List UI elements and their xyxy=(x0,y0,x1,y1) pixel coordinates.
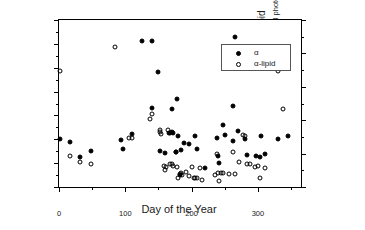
data-point-alpha-lipid xyxy=(257,176,262,181)
data-point-alpha xyxy=(118,138,123,143)
data-point-alpha-lipid xyxy=(281,106,286,111)
data-point-alpha xyxy=(259,133,264,138)
x-axis-tick-label: 0 xyxy=(57,210,61,218)
data-point-alpha xyxy=(230,138,235,143)
data-point-alpha-lipid xyxy=(159,131,164,136)
data-point-alpha-lipid xyxy=(230,150,235,155)
legend-label-alpha-lipid: α-lipid xyxy=(254,60,276,68)
data-point-alpha-lipid xyxy=(88,162,93,167)
data-point-alpha xyxy=(221,122,226,127)
data-point-alpha-lipid xyxy=(147,116,152,121)
data-point-alpha xyxy=(175,97,180,102)
open-circle-icon xyxy=(236,62,241,67)
plot-area: 0.0000.0100.0200.0300.0400.0500.0600.070… xyxy=(58,19,302,188)
data-point-alpha-lipid xyxy=(232,172,237,177)
legend: α α-lipid xyxy=(221,44,291,71)
data-point-alpha xyxy=(58,137,63,142)
data-point-alpha xyxy=(231,103,236,108)
data-point-alpha xyxy=(169,107,174,112)
filled-circle-icon xyxy=(236,51,241,56)
data-point-alpha-lipid xyxy=(129,135,134,140)
x-axis-tick-label: 200 xyxy=(185,210,198,218)
data-point-alpha xyxy=(157,148,162,153)
data-point-alpha xyxy=(121,146,126,151)
figure-container: α (µgC µgChla-1) (µmol photons m-2 s-1)-… xyxy=(0,0,365,230)
data-point-alpha xyxy=(139,39,144,44)
data-point-alpha xyxy=(163,151,168,156)
data-point-alpha xyxy=(67,140,72,145)
data-point-alpha xyxy=(232,34,237,39)
data-point-alpha xyxy=(217,161,222,166)
data-point-alpha xyxy=(156,70,161,75)
data-point-alpha xyxy=(186,142,191,147)
data-point-alpha xyxy=(178,148,183,153)
data-point-alpha xyxy=(275,136,280,141)
data-point-alpha-lipid xyxy=(214,151,219,156)
data-point-alpha-lipid xyxy=(194,176,199,181)
data-point-alpha xyxy=(181,140,186,145)
data-point-alpha-lipid xyxy=(262,165,267,170)
legend-item-alpha-lipid: α-lipid xyxy=(222,58,290,70)
data-point-alpha-lipid xyxy=(237,160,242,165)
data-point-alpha-lipid xyxy=(58,69,63,74)
data-point-alpha-lipid xyxy=(221,170,226,175)
data-point-alpha-lipid xyxy=(77,160,82,165)
data-point-alpha-lipid xyxy=(200,178,205,183)
data-point-alpha xyxy=(149,106,154,111)
data-point-alpha-lipid xyxy=(175,164,180,169)
data-point-alpha-lipid xyxy=(173,150,178,155)
data-point-alpha xyxy=(262,151,267,156)
data-point-alpha-lipid xyxy=(197,165,202,170)
data-point-alpha xyxy=(202,165,207,170)
data-point-alpha xyxy=(214,135,219,140)
data-point-alpha-lipid xyxy=(67,153,72,158)
data-point-alpha xyxy=(194,146,199,151)
x-axis-tick-label: 300 xyxy=(252,210,265,218)
data-point-alpha xyxy=(192,133,197,138)
data-point-alpha xyxy=(222,132,227,137)
data-point-alpha xyxy=(236,128,241,133)
data-point-alpha xyxy=(171,130,176,135)
data-point-alpha-lipid xyxy=(255,163,260,168)
data-point-alpha-lipid xyxy=(150,111,155,116)
data-point-alpha-lipid xyxy=(166,127,171,132)
data-point-alpha xyxy=(245,153,250,158)
data-point-alpha-lipid xyxy=(189,164,194,169)
data-point-alpha-lipid xyxy=(247,162,252,167)
data-point-alpha-lipid xyxy=(226,171,231,176)
data-point-alpha-lipid xyxy=(112,45,117,50)
data-point-alpha xyxy=(285,134,290,139)
legend-label-alpha: α xyxy=(254,49,259,57)
data-point-alpha-lipid xyxy=(243,133,248,138)
x-axis-tick-label: 100 xyxy=(119,210,132,218)
data-point-alpha xyxy=(88,148,93,153)
data-point-alpha xyxy=(149,38,154,43)
data-point-alpha xyxy=(176,133,181,138)
data-point-alpha-lipid xyxy=(217,178,222,183)
